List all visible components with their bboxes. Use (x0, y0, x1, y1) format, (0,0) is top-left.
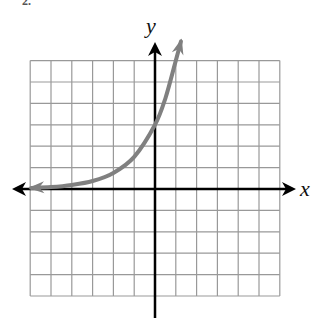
exponential-curve (31, 41, 181, 188)
y-axis-label: y (144, 13, 156, 38)
axes: y x (12, 13, 310, 318)
x-axis-label: x (299, 176, 310, 201)
exponential-graph: y x (0, 0, 324, 321)
